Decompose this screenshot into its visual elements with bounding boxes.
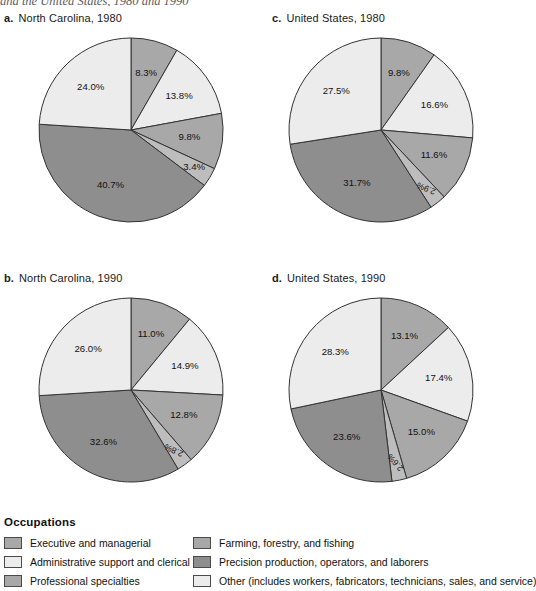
chart-title-text-d: United States, 1990 (287, 272, 386, 284)
pie-chart-b: 11.0%14.9%12.8%2.8%32.6%26.0% (25, 284, 237, 496)
pie-slice-label-a-3: 3.4% (183, 161, 205, 172)
legend-label-exec: Executive and managerial (30, 537, 151, 549)
pie-slice-label-d-0: 13.1% (391, 330, 419, 341)
pie-slice-label-b-4: 32.6% (90, 436, 118, 447)
legend-column-left: Executive and managerialAdministrative s… (4, 534, 190, 591)
legend-label-prof: Professional specialties (30, 575, 140, 587)
pie-wrap-b: 11.0%14.9%12.8%2.8%32.6%26.0% (25, 284, 237, 496)
legend-swatch-exec (4, 537, 22, 549)
pie-chart-a: 8.3%13.8%9.8%3.4%40.7%24.0% (25, 24, 237, 236)
legend-item-exec[interactable]: Executive and managerial (4, 534, 190, 552)
pie-slice-label-d-5: 28.3% (322, 346, 350, 357)
chart-key-b: b. (4, 272, 14, 284)
chart-title-c: c.United States, 1980 (272, 12, 385, 24)
legend-item-precision[interactable]: Precision production, operators, and lab… (193, 553, 536, 571)
legend-columns: Executive and managerialAdministrative s… (3, 534, 503, 590)
chart-title-text-c: United States, 1980 (286, 12, 385, 24)
pie-wrap-d: 13.1%17.4%15.0%2.6%23.6%28.3% (275, 284, 487, 496)
pie-slice-label-c-0: 9.8% (388, 67, 410, 78)
legend-item-farm[interactable]: Farming, forestry, and fishing (193, 534, 536, 552)
legend-swatch-farm (193, 537, 211, 549)
figure-caption-partial: and the United States, 1980 and 1990 (0, 0, 504, 6)
pie-chart-c: 9.8%16.6%11.6%2.9%31.7%27.5% (275, 24, 487, 236)
chart-title-a: a.North Carolina, 1980 (4, 12, 122, 24)
pie-slice-label-a-5: 24.0% (77, 81, 105, 92)
pie-slice-label-b-5: 26.0% (75, 343, 103, 354)
pie-slice-label-c-1: 16.6% (421, 99, 449, 110)
pie-slice-label-b-0: 11.0% (138, 328, 165, 339)
pie-slice-label-b-2: 12.8% (170, 409, 198, 420)
legend: Occupations Executive and managerialAdmi… (3, 516, 503, 590)
legend-item-other[interactable]: Other (includes workers, fabricators, te… (193, 572, 536, 590)
legend-swatch-other (193, 575, 211, 587)
pie-slice-label-c-2: 11.6% (421, 149, 448, 160)
pie-slice-label-a-1: 13.8% (165, 90, 193, 101)
pie-wrap-a: 8.3%13.8%9.8%3.4%40.7%24.0% (25, 24, 237, 236)
pie-wrap-c: 9.8%16.6%11.6%2.9%31.7%27.5% (275, 24, 487, 236)
pie-slice-label-c-5: 27.5% (323, 85, 351, 96)
pie-slice-label-d-1: 17.4% (425, 372, 453, 383)
legend-swatch-prof (4, 575, 22, 587)
legend-swatch-admin (4, 556, 22, 568)
pie-slice-label-a-2: 9.8% (178, 131, 200, 142)
chart-title-text-a: North Carolina, 1980 (18, 12, 122, 24)
legend-column-right: Farming, forestry, and fishingPrecision … (193, 534, 536, 591)
legend-label-farm: Farming, forestry, and fishing (219, 537, 354, 549)
pie-slice-label-b-1: 14.9% (171, 360, 199, 371)
pie-slice-label-d-2: 15.0% (408, 426, 436, 437)
legend-label-admin: Administrative support and clerical (30, 556, 190, 568)
chart-key-a: a. (4, 12, 13, 24)
legend-title: Occupations (4, 516, 503, 528)
chart-title-text-b: North Carolina, 1990 (19, 272, 123, 284)
pie-slice-label-c-4: 31.7% (343, 177, 371, 188)
legend-swatch-precision (193, 556, 211, 568)
chart-title-b: b.North Carolina, 1990 (4, 272, 123, 284)
chart-key-c: c. (272, 12, 281, 24)
pie-slice-label-d-4: 23.6% (333, 431, 361, 442)
legend-label-precision: Precision production, operators, and lab… (219, 556, 429, 568)
chart-title-d: d.United States, 1990 (272, 272, 386, 284)
pie-slice-label-a-0: 8.3% (135, 67, 157, 78)
legend-label-other: Other (includes workers, fabricators, te… (219, 575, 536, 587)
pie-chart-d: 13.1%17.4%15.0%2.6%23.6%28.3% (275, 284, 487, 496)
legend-item-prof[interactable]: Professional specialties (4, 572, 190, 590)
pie-slice-label-a-4: 40.7% (97, 179, 125, 190)
legend-item-admin[interactable]: Administrative support and clerical (4, 553, 190, 571)
chart-key-d: d. (272, 272, 282, 284)
